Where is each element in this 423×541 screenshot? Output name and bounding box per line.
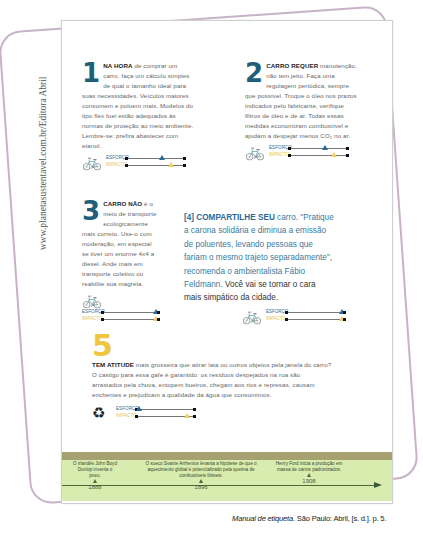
effort-row: ESFORÇO xyxy=(106,155,186,161)
effort-marker xyxy=(159,155,165,160)
impact-row: IMPACTO xyxy=(82,316,160,322)
recycle-icon: ♻ xyxy=(92,404,105,422)
impact-label: IMPACTO xyxy=(269,152,287,158)
impact-label: IMPACTO xyxy=(82,316,100,322)
tip-number: 5 xyxy=(92,332,329,360)
effort-marker xyxy=(153,309,159,314)
tip-5: 5 TEM ATITUDE mais grosseira que atirar … xyxy=(92,331,332,422)
effort-label: ESFORÇO xyxy=(116,406,134,412)
impact-label: IMPACTO xyxy=(266,316,284,322)
tip-number: 1 xyxy=(82,62,100,84)
effort-label: ESFORÇO xyxy=(266,309,284,315)
effort-label: ESFORÇO xyxy=(269,145,287,151)
event-text: O irlandês John Boyd Dunlop inventa o pn… xyxy=(73,461,117,478)
effort-label: ESFORÇO xyxy=(106,155,124,161)
tip-lead: NA HORA xyxy=(103,62,132,69)
timeline-band xyxy=(62,452,392,460)
impact-row: IMPACTO xyxy=(266,316,346,322)
side-credit: www.planetasustentavel.com.br/Editora Ab… xyxy=(38,40,52,250)
event-year: 1896 xyxy=(140,483,262,492)
impact-marker xyxy=(168,162,174,167)
tip-lead: TEM ATITUDE xyxy=(92,361,134,368)
citation-title: Manual de etiqueta xyxy=(232,514,293,523)
tip-lead: CARRO NÃO xyxy=(103,200,142,207)
source-citation: Manual de etiqueta. São Paulo: Abril, [s… xyxy=(232,514,386,523)
impact-marker xyxy=(339,316,345,321)
effort-label: ESFORÇO xyxy=(82,309,100,315)
impact-row: IMPACTO xyxy=(269,152,349,158)
tip-4-quote: [4] COMPARTILHE SEU carro. "Pratique a c… xyxy=(184,211,334,325)
effort-row: ESFORÇO xyxy=(269,145,349,151)
effort-marker xyxy=(322,145,328,150)
tip-number: [4] xyxy=(184,213,194,222)
tip-lead: CARRO REQUER xyxy=(266,62,318,69)
impact-row: IMPACTO xyxy=(106,162,186,168)
timeline-event: O sueco Svante Arrhenius levanta a hipót… xyxy=(140,461,262,492)
citation-rest: . São Paulo: Abril, [s. d.]. p. 5. xyxy=(293,514,386,523)
tip-2: 2 CARRO REQUER manutenção, não tem jeito… xyxy=(245,61,357,161)
bicycle-icon: 🚲 xyxy=(245,143,265,161)
effort-impact-meter: 🚲 ESFORÇO IMPACTO xyxy=(242,307,334,325)
effort-row: ESFORÇO xyxy=(116,406,196,412)
effort-impact-meter: 🚲 ESFORÇO IMPACTO xyxy=(82,291,160,321)
effort-row: ESFORÇO xyxy=(266,309,346,315)
impact-marker xyxy=(331,152,337,157)
tip-number: 3 xyxy=(82,200,100,222)
impact-label: IMPACTO xyxy=(116,413,134,419)
impact-label: IMPACTO xyxy=(106,162,124,168)
impact-marker xyxy=(153,316,159,321)
event-year: 1908 xyxy=(274,477,344,486)
effort-impact-meter: ♻ ESFORÇO IMPACTO xyxy=(92,404,332,422)
tip-lead: COMPARTILHE SEU xyxy=(196,213,275,222)
arrow-right-icon xyxy=(374,482,382,488)
event-year: 1888 xyxy=(72,483,118,492)
tip-number: 2 xyxy=(245,62,263,84)
impact-marker xyxy=(184,413,190,418)
bicycle-icon: 🚲 xyxy=(82,291,102,309)
effort-marker xyxy=(136,406,142,411)
bicycle-icon: 🚲 xyxy=(82,153,102,171)
effort-impact-meter: 🚲 ESFORÇO IMPACTO xyxy=(245,143,357,161)
event-text: O sueco Svante Arrhenius levanta a hipót… xyxy=(145,461,256,478)
timeline-event: O irlandês John Boyd Dunlop inventa o pn… xyxy=(72,461,118,492)
magazine-page: 1 NA HORA de comprar um carro, faça um c… xyxy=(61,20,393,504)
event-text: Henry Ford inicia a produção em massa de… xyxy=(276,461,343,472)
timeline-event: Henry Ford inicia a produção em massa de… xyxy=(274,461,344,486)
tip-3: 3 CARRO NÃO é o meio de transporte ecolo… xyxy=(82,199,160,321)
history-timeline: O irlandês John Boyd Dunlop inventa o pn… xyxy=(62,452,392,501)
impact-row: IMPACTO xyxy=(116,413,196,419)
effort-impact-meter: 🚲 ESFORÇO IMPACTO xyxy=(82,153,194,171)
effort-marker xyxy=(339,309,345,314)
tip-text: carro. "Pratique a carona solidária e di… xyxy=(184,213,334,289)
bicycle-icon: 🚲 xyxy=(242,307,262,325)
effort-row: ESFORÇO xyxy=(82,309,160,315)
tip-1: 1 NA HORA de comprar um carro, faça um c… xyxy=(82,61,194,171)
